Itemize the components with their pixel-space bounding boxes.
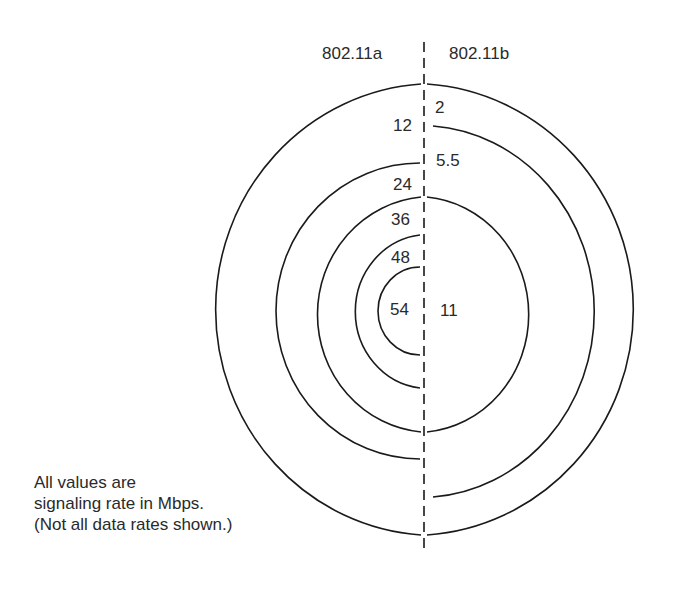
rate-label-80211a-24: 24 <box>393 176 412 193</box>
rate-label-80211a-36: 36 <box>391 211 410 228</box>
header-80211b: 802.11b <box>449 45 509 62</box>
footnote-line-1: All values are <box>34 472 232 493</box>
rate-label-80211a-12: 12 <box>393 117 412 134</box>
rate-label-80211a-54: 54 <box>390 301 409 318</box>
rate-label-80211b-2: 2 <box>435 99 444 116</box>
header-80211a: 802.11a <box>322 45 382 62</box>
footnote-line-3: (Not all data rates shown.) <box>34 514 232 535</box>
ring-80211a-48 <box>355 235 420 388</box>
footnote: All values are signaling rate in Mbps. (… <box>34 472 232 535</box>
rate-label-80211b-5-5: 5.5 <box>436 152 460 169</box>
rate-label-80211a-48: 48 <box>391 249 410 266</box>
rate-label-80211b-11: 11 <box>440 302 458 319</box>
footnote-line-2: signaling rate in Mbps. <box>34 493 232 514</box>
